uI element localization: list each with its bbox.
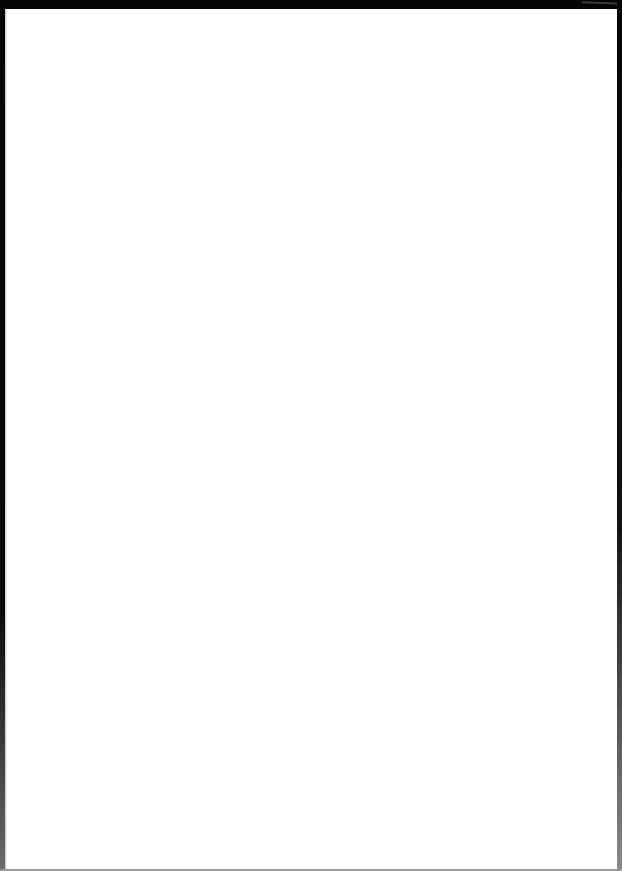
scanned-document [0, 0, 622, 871]
scan-shadow-left [5, 9, 7, 871]
scan-border-top [0, 0, 622, 9]
scan-border-right [617, 0, 622, 871]
blank-page [7, 9, 617, 869]
